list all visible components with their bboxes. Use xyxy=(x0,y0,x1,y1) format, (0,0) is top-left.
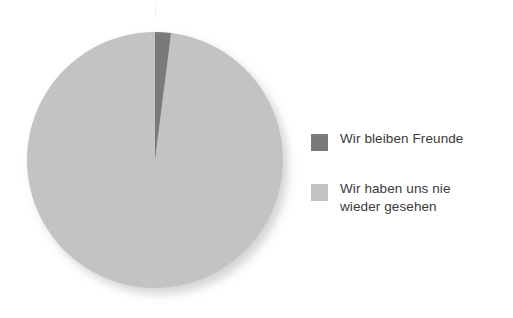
legend-item-wir-bleiben-freunde[interactable]: Wir bleiben Freunde xyxy=(311,130,501,151)
chart-canvas: Wir bleiben Freunde Wir haben uns nie wi… xyxy=(0,0,513,318)
legend-item-wir-haben-uns-nie-wieder-gesehen[interactable]: Wir haben uns nie wieder gesehen xyxy=(311,180,501,215)
legend-label-wir-haben-uns-nie-wieder-gesehen: Wir haben uns nie wieder gesehen xyxy=(340,180,451,215)
legend: Wir bleiben Freunde Wir haben uns nie wi… xyxy=(311,130,501,215)
pie-slices xyxy=(27,32,283,288)
legend-swatch-icon-wir-haben-uns-nie-wieder-gesehen xyxy=(311,184,328,201)
pie-svg xyxy=(27,32,283,288)
pie-chart xyxy=(27,32,283,288)
legend-swatch-icon-wir-bleiben-freunde xyxy=(311,134,328,151)
pie-slice-wir-haben-uns-nie-wieder-gesehen[interactable] xyxy=(27,32,283,288)
top-tick-mark xyxy=(155,2,156,18)
legend-label-wir-bleiben-freunde: Wir bleiben Freunde xyxy=(340,130,463,148)
